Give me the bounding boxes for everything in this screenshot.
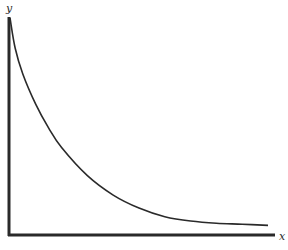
decay-curve <box>10 18 268 225</box>
plot-area <box>0 0 288 250</box>
x-axis-label: x <box>279 231 285 242</box>
decay-curve-figure: y x <box>0 0 288 250</box>
y-axis-label: y <box>6 3 12 14</box>
